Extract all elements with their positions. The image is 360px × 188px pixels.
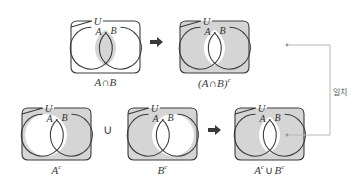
panel-caption-a-complement: Ac xyxy=(14,163,99,176)
panel-caption-a-intersect-b-complement: (A∩B)c xyxy=(172,76,257,89)
caption-union-symbol: ∪ xyxy=(264,164,274,176)
caption-text: (A∩B) xyxy=(198,77,228,89)
panel-a-complement: U A B Ac xyxy=(14,101,99,163)
panel-caption-a-intersect-b: A∩B xyxy=(63,76,148,88)
set-b-label: B xyxy=(167,112,173,123)
bracket-endpoint-bottom xyxy=(286,134,289,137)
caption-b-superscript: c xyxy=(282,163,285,171)
set-a-label: A xyxy=(94,26,102,37)
set-a-label: A xyxy=(45,113,53,124)
caption-superscript: c xyxy=(164,163,167,171)
panel-caption-b-complement: Bc xyxy=(120,163,205,176)
bracket-path xyxy=(287,45,330,135)
bracket-endpoint-top xyxy=(286,44,289,47)
set-a-label: A xyxy=(151,113,159,124)
venn-a-intersect-b: U A B xyxy=(63,14,148,76)
venn-diagram-figure: U A B A∩B U A xyxy=(0,0,360,188)
set-b-label: B xyxy=(61,112,67,123)
arrow-right-glyph xyxy=(208,124,222,136)
panel-a-intersect-b: U A B A∩B xyxy=(63,14,148,76)
caption-superscript: c xyxy=(228,76,231,84)
panel-a-intersect-b-complement: U A B (A∩B)c xyxy=(172,14,257,76)
arrow-right-glyph xyxy=(150,36,164,48)
set-a-label: A xyxy=(258,113,266,124)
caption-b-text: B xyxy=(275,164,282,176)
caption-superscript: c xyxy=(58,163,61,171)
set-b-label: B xyxy=(110,25,116,36)
set-a-label: A xyxy=(203,26,211,37)
venn-b-complement: U A B xyxy=(120,101,205,163)
panel-b-complement: U A B Bc xyxy=(120,101,205,163)
union-operator-bottom: ∪ xyxy=(103,122,113,138)
match-text: 일치 xyxy=(333,88,347,97)
venn-a-intersect-b-complement: U A B xyxy=(172,14,257,76)
set-b-label: B xyxy=(219,25,225,36)
union-symbol: ∪ xyxy=(103,122,113,137)
match-annotation-label: 일치 xyxy=(333,86,347,97)
match-connector-bracket xyxy=(280,38,360,143)
arrow-bottom-icon xyxy=(208,124,222,136)
arrow-top-icon xyxy=(150,36,164,48)
panel-caption-a-complement-union-b-complement: Ac∪Bc xyxy=(227,163,312,177)
venn-a-complement: U A B xyxy=(14,101,99,163)
caption-text: A∩B xyxy=(95,76,117,88)
